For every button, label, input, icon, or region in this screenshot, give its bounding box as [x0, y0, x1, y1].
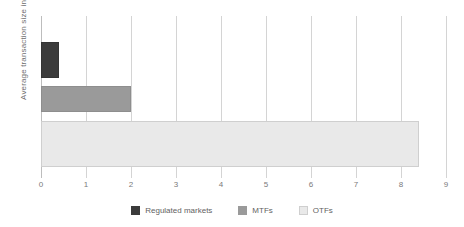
- legend-label: MTFs: [252, 206, 272, 215]
- x-tick-label: 1: [74, 180, 98, 189]
- bar-mtfs: [41, 86, 131, 112]
- legend-item[interactable]: OTFs: [299, 206, 333, 215]
- bar-regulated-markets: [41, 42, 59, 78]
- chart-legend: Regulated marketsMTFsOTFs: [0, 203, 464, 217]
- legend-item[interactable]: MTFs: [238, 206, 272, 215]
- x-tick-label: 3: [164, 180, 188, 189]
- legend-swatch-icon: [238, 206, 247, 215]
- bar-otfs: [41, 121, 419, 167]
- x-tick-label: 9: [434, 180, 458, 189]
- plot-area: [41, 16, 446, 178]
- x-tick-label: 4: [209, 180, 233, 189]
- x-tick-label: 0: [29, 180, 53, 189]
- x-axis-tick-labels: 0123456789: [41, 180, 446, 194]
- bar-chart: Average transaction size in million EUR …: [0, 0, 464, 227]
- legend-label: OTFs: [313, 206, 333, 215]
- legend-label: Regulated markets: [145, 206, 212, 215]
- legend-item[interactable]: Regulated markets: [131, 206, 212, 215]
- legend-swatch-icon: [299, 206, 308, 215]
- legend-swatch-icon: [131, 206, 140, 215]
- y-axis-title: Average transaction size in million EUR: [12, 0, 34, 108]
- x-tick-label: 7: [344, 180, 368, 189]
- gridline-9: [446, 16, 447, 178]
- x-tick-label: 2: [119, 180, 143, 189]
- x-tick-label: 8: [389, 180, 413, 189]
- x-tick-label: 5: [254, 180, 278, 189]
- x-tick-label: 6: [299, 180, 323, 189]
